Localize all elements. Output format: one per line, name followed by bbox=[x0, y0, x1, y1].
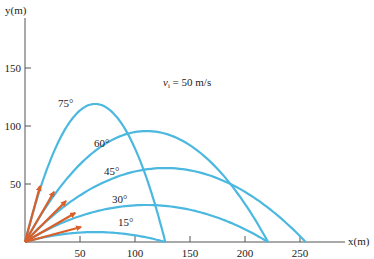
projectile-chart: y(m) x(m) 50100150 50100150200250 15°30°… bbox=[0, 0, 374, 259]
y-tick-label: 100 bbox=[5, 120, 22, 132]
angle-label-15: 15° bbox=[118, 216, 133, 228]
y-tick-label: 50 bbox=[10, 178, 22, 190]
angle-label-60: 60° bbox=[94, 137, 109, 149]
x-ticks: 50100150200250 bbox=[75, 236, 309, 259]
y-tick-label: 150 bbox=[5, 62, 22, 74]
angle-label-75: 75° bbox=[58, 97, 73, 109]
speed-annotation: vi = 50 m/s bbox=[163, 76, 211, 90]
angle-label-45: 45° bbox=[104, 165, 119, 177]
y-axis-label: y(m) bbox=[5, 4, 27, 17]
trajectory-60 bbox=[25, 131, 268, 242]
x-tick-label: 50 bbox=[75, 247, 87, 259]
trajectories bbox=[25, 104, 306, 242]
angle-label-30: 30° bbox=[112, 193, 127, 205]
x-tick-label: 200 bbox=[237, 247, 254, 259]
x-tick-label: 250 bbox=[292, 247, 309, 259]
x-tick-label: 150 bbox=[182, 247, 199, 259]
y-ticks: 50100150 bbox=[5, 62, 32, 190]
x-tick-label: 100 bbox=[127, 247, 144, 259]
x-axis-label: x(m) bbox=[348, 235, 370, 248]
angle-labels: 15°30°45°60°75° bbox=[58, 97, 133, 228]
